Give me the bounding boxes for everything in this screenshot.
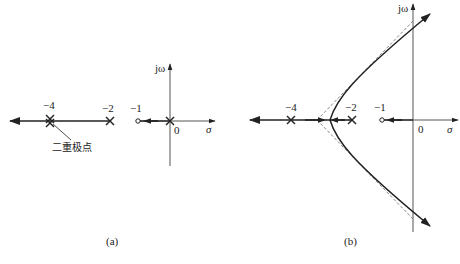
tick-label-minus2-a: −2 xyxy=(102,102,114,114)
tick-label-minus4-b: −4 xyxy=(285,101,297,113)
tick-label-minus1-b: −1 xyxy=(374,101,386,113)
zero-minus1-a xyxy=(136,119,140,123)
panel-a: jω σ 0 −1 −2 −4 二重 xyxy=(10,62,215,248)
zero-minus1-b xyxy=(380,118,384,122)
caption-b: (b) xyxy=(344,235,357,248)
origin-label-a: 0 xyxy=(174,124,180,136)
tick-label-minus4-a: −4 xyxy=(43,99,55,111)
origin-label-b: 0 xyxy=(418,123,424,135)
imag-axis-label-a: jω xyxy=(154,62,165,74)
tick-label-minus1-a: −1 xyxy=(130,102,142,114)
real-axis-label-a: σ xyxy=(206,123,212,135)
imag-axis-label-b: jω xyxy=(397,2,408,14)
annotation-leader xyxy=(53,124,71,140)
root-locus-figure: jω σ 0 −1 −2 −4 二重 xyxy=(0,0,460,264)
tick-label-minus2-b: −2 xyxy=(345,101,357,113)
locus-branch-lower xyxy=(330,120,430,226)
caption-a: (a) xyxy=(106,235,119,248)
annotation-double-pole: 二重极点 xyxy=(52,141,92,153)
real-axis-label-b: σ xyxy=(447,123,453,135)
panel-b: jω σ 0 −1 −2 xyxy=(250,2,458,248)
